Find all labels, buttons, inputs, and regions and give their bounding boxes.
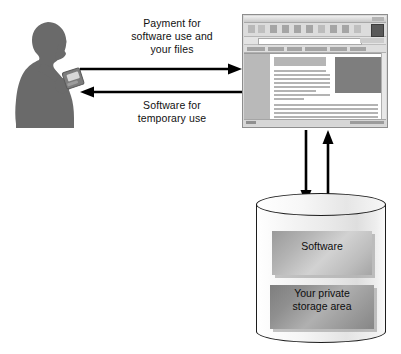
text-line bbox=[274, 98, 304, 100]
stop-icon[interactable] bbox=[270, 25, 277, 33]
page-image-block bbox=[335, 57, 381, 93]
text-line bbox=[274, 86, 330, 88]
storage-cylinder bbox=[256, 193, 386, 343]
arrow-payment-right bbox=[80, 64, 242, 75]
link-item[interactable] bbox=[330, 47, 347, 51]
browser-links-bar[interactable] bbox=[244, 45, 386, 53]
browser-statusbar bbox=[244, 119, 386, 126]
text-line bbox=[274, 94, 330, 96]
storage-block-software bbox=[272, 231, 372, 275]
address-input[interactable] bbox=[258, 38, 362, 45]
flow-label-software-temporary: Software for temporary use bbox=[108, 99, 236, 125]
link-item[interactable] bbox=[287, 47, 302, 51]
status-text bbox=[246, 121, 256, 124]
text-line bbox=[274, 104, 378, 106]
print-icon[interactable] bbox=[342, 25, 349, 33]
link-item[interactable] bbox=[268, 47, 284, 51]
user-server-arrows bbox=[78, 56, 244, 104]
mail-icon[interactable] bbox=[354, 25, 361, 33]
text-line bbox=[274, 108, 378, 110]
text-line bbox=[274, 112, 378, 114]
text-line bbox=[274, 70, 326, 72]
storage-block-software-label: Software bbox=[274, 240, 370, 253]
link-item[interactable] bbox=[350, 47, 366, 51]
browser-addressbar[interactable] bbox=[244, 37, 386, 45]
link-item[interactable] bbox=[247, 47, 265, 51]
browser-page-viewport[interactable] bbox=[244, 53, 386, 120]
web-browser-window[interactable] bbox=[242, 14, 388, 128]
browser-logo-icon bbox=[371, 24, 384, 37]
back-icon[interactable] bbox=[248, 25, 255, 33]
page-content-area bbox=[272, 54, 382, 120]
browser-toolbar[interactable] bbox=[244, 23, 386, 37]
status-zone-icons bbox=[350, 121, 384, 124]
page-heading-block bbox=[274, 57, 326, 66]
text-line bbox=[274, 82, 330, 84]
page-sidebar bbox=[244, 54, 270, 120]
window-controls[interactable] bbox=[372, 17, 384, 21]
arrow-software-left bbox=[80, 87, 242, 98]
browser-titlebar[interactable] bbox=[244, 16, 386, 23]
diagram-canvas: Payment for software use and your files … bbox=[0, 0, 401, 354]
storage-block-private-label: Your private storage area bbox=[272, 287, 372, 312]
flow-label-payment: Payment for software use and your files bbox=[108, 17, 236, 56]
text-line bbox=[274, 116, 378, 118]
history-icon[interactable] bbox=[330, 25, 337, 33]
text-line bbox=[274, 78, 330, 80]
link-item[interactable] bbox=[305, 47, 327, 51]
go-button[interactable] bbox=[360, 38, 384, 43]
forward-icon[interactable] bbox=[258, 25, 265, 33]
text-line bbox=[274, 90, 316, 92]
favorites-icon[interactable] bbox=[318, 25, 325, 33]
vertical-scrollbar[interactable] bbox=[381, 53, 386, 120]
text-line bbox=[274, 74, 330, 76]
refresh-icon[interactable] bbox=[282, 25, 289, 33]
home-icon[interactable] bbox=[294, 25, 301, 33]
cylinder-top-ellipse bbox=[256, 193, 386, 216]
search-icon[interactable] bbox=[306, 25, 313, 33]
